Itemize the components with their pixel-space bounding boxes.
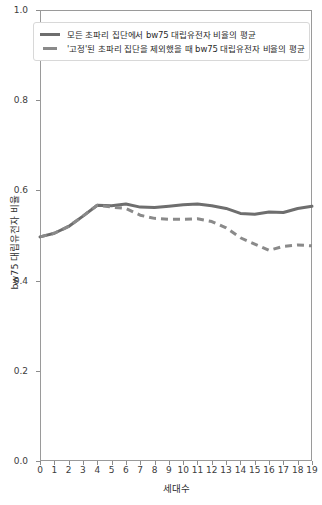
y-tick-label: 0.0 [0, 457, 28, 466]
x-tick-mark [40, 461, 41, 465]
legend-label-excluding-fixed: '고정'된 초파리 집단을 제외했을 때 bw75 대립유전자 비율의 평균 [67, 42, 305, 54]
x-tick-mark [283, 461, 284, 465]
y-tick-label: 0.8 [0, 96, 28, 105]
x-tick-mark [197, 461, 198, 465]
y-tick-mark [36, 371, 40, 372]
y-tick-label: 0.2 [0, 366, 28, 375]
y-tick-label: 1.0 [0, 6, 28, 15]
y-tick-mark [36, 281, 40, 282]
legend-label-all-populations: 모든 초파리 집단에서 bw75 대립유전자 비율의 평균 [67, 28, 255, 40]
x-tick-mark [312, 461, 313, 465]
x-tick-mark [97, 461, 98, 465]
x-tick-mark [183, 461, 184, 465]
x-tick-mark [69, 461, 70, 465]
x-tick-mark [212, 461, 213, 465]
x-tick-mark [126, 461, 127, 465]
x-tick-label: 19 [302, 466, 322, 475]
x-tick-mark [269, 461, 270, 465]
x-axis-title: 세대수 [40, 481, 312, 495]
chart-plot-svg [40, 10, 312, 461]
x-tick-mark [112, 461, 113, 465]
x-tick-mark [169, 461, 170, 465]
x-tick-mark [298, 461, 299, 465]
y-tick-mark [36, 190, 40, 191]
x-tick-mark [255, 461, 256, 465]
y-axis-title: bw75 대립유전자 비율 [7, 142, 21, 342]
y-tick-mark [36, 10, 40, 11]
chart-legend: 모든 초파리 집단에서 bw75 대립유전자 비율의 평균 '고정'된 초파리 … [33, 22, 310, 61]
legend-swatch-solid-line-icon [39, 27, 61, 41]
chart-figure: 0.00.20.40.60.81.0 012345678910111213141… [0, 0, 322, 505]
x-tick-mark [226, 461, 227, 465]
x-tick-mark [140, 461, 141, 465]
x-tick-mark [83, 461, 84, 465]
y-tick-mark [36, 100, 40, 101]
x-tick-mark [54, 461, 55, 465]
legend-item-all-populations: 모든 초파리 집단에서 bw75 대립유전자 비율의 평균 [39, 27, 304, 41]
legend-swatch-dashed-line-icon [39, 41, 61, 55]
x-tick-mark [155, 461, 156, 465]
legend-item-excluding-fixed: '고정'된 초파리 집단을 제외했을 때 bw75 대립유전자 비율의 평균 [39, 41, 304, 55]
x-tick-mark [240, 461, 241, 465]
